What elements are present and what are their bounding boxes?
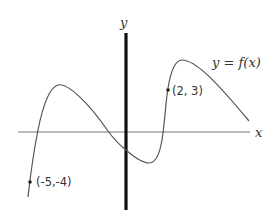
x-axis-label: x: [255, 125, 263, 140]
point-marker-2-3: [166, 88, 170, 92]
curve-label: y = f(x): [211, 55, 261, 70]
y-axis-label: y: [119, 15, 128, 30]
point-label-neg5-neg4: (-5,-4): [36, 175, 72, 189]
point-label-2-3: (2, 3): [172, 84, 203, 98]
function-graph: y x y = f(x) (2, 3) (-5,-4): [0, 0, 280, 216]
point-marker-neg5-neg4: [28, 180, 32, 184]
